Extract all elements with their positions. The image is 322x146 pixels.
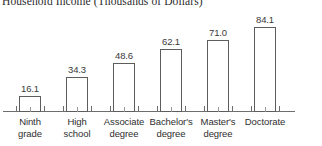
bar-base-tick — [30, 107, 31, 112]
bar — [113, 63, 135, 112]
bar-value-label: 71.0 — [198, 28, 238, 38]
bar — [254, 27, 276, 112]
category-label-line: Doctorate — [237, 116, 293, 128]
bar-value-label: 48.6 — [104, 51, 144, 61]
axis-tick — [16, 106, 17, 112]
axis-tick — [44, 106, 45, 112]
bar-base-tick — [265, 107, 266, 112]
bar-value-label: 34.3 — [57, 65, 97, 75]
axis-tick — [279, 106, 280, 112]
bar-base-tick — [124, 107, 125, 112]
bar — [160, 49, 182, 112]
axis-tick — [110, 106, 111, 112]
bar-base-tick — [77, 107, 78, 112]
bar-base-tick — [171, 107, 172, 112]
axis-tick — [185, 106, 186, 112]
axis-tick — [91, 106, 92, 112]
axis-tick — [63, 106, 64, 112]
category-label: Doctorate — [237, 116, 293, 128]
axis-tick — [232, 106, 233, 112]
axis-tick — [157, 106, 158, 112]
axis-tick — [251, 106, 252, 112]
bar-value-label: 84.1 — [245, 15, 285, 25]
bar-base-tick — [218, 107, 219, 112]
bar-value-label: 16.1 — [10, 84, 50, 94]
axis-tick — [138, 106, 139, 112]
plot-area: 16.134.348.662.171.084.1 NinthgradeHighs… — [0, 0, 300, 146]
category-label-line: degree — [190, 128, 246, 140]
axis-tick — [204, 106, 205, 112]
chart-figure: Household Income (Thousands of Dollars) … — [0, 0, 322, 146]
bar-value-label: 62.1 — [151, 37, 191, 47]
bar — [207, 40, 229, 112]
